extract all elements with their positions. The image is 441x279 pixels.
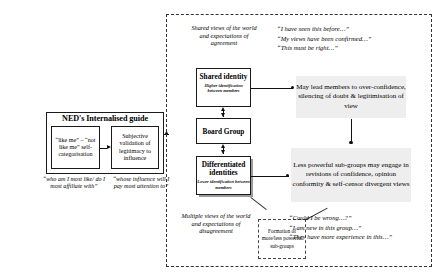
diagram-canvas: NED's Internalised guide “like me” – “no… xyxy=(0,0,441,279)
board-group-box: Board Group xyxy=(196,118,251,144)
bottom-quotes-group: “Could I be wrong…?” “I am new in this g… xyxy=(289,213,439,242)
shared-identity-title: Shared identity xyxy=(197,73,250,81)
differentiated-identities-to-outcome-line xyxy=(251,176,289,177)
shared-to-board-arrowhead-down xyxy=(221,113,225,117)
differentiated-identities-subtitle: Lower identification between members xyxy=(197,179,250,189)
board-group-label: Board Group xyxy=(197,119,250,145)
outcome-link-line xyxy=(351,119,352,143)
ned-right-caption: “whose influence will I pay most attenti… xyxy=(110,176,172,191)
legitimacy-validation-label: Subjective validation of legitimacy to i… xyxy=(112,133,158,162)
shared-identity-to-outcome-line xyxy=(251,88,293,89)
board-to-differentiated-arrowhead-up xyxy=(221,144,225,148)
upper-outcome-block: May lead members to over-confidence, sil… xyxy=(296,76,406,118)
differentiated-identities-title: Differentiated identities xyxy=(197,161,250,177)
self-categorisation-box: “like me” – “not like me” self-categoris… xyxy=(51,126,100,169)
bottom-quote-2: “I am new in this group…” xyxy=(289,223,439,233)
differentiated-identities-box: Differentiated identities Lower identifi… xyxy=(196,156,251,195)
self-categorisation-label: “like me” – “not like me” self-categoris… xyxy=(52,137,99,159)
legitimacy-validation-box: Subjective validation of legitimacy to i… xyxy=(111,126,159,169)
shared-identity-box: Shared identity Higher identification be… xyxy=(196,68,251,107)
lower-outcome-block: Less powerful sub-groups may engage in r… xyxy=(291,148,411,202)
top-quote-1: “I have seen this before…” xyxy=(277,24,427,34)
upper-outcome-label: May lead members to over-confidence, sil… xyxy=(296,83,406,111)
bottom-quote-3: “They have more experience in this…” xyxy=(289,232,439,242)
top-quote-2: “My views have been confirmed…” xyxy=(277,34,427,44)
shared-views-caption: Shared views of the world and expectatio… xyxy=(186,24,262,47)
bottom-quote-1: “Could I be wrong…?” xyxy=(289,213,439,223)
lower-outcome-label: Less powerful sub-groups may engage in r… xyxy=(291,161,411,189)
ned-internal-connector-arrowhead xyxy=(107,145,111,149)
top-quote-3: “This must be right…” xyxy=(277,43,427,53)
ned-left-caption: “who am I most like/ do I most affiliate… xyxy=(38,176,110,191)
board-to-differentiated-arrowhead-down xyxy=(221,150,225,154)
multiple-views-caption: Multiple views of the world and expectat… xyxy=(178,212,254,235)
shared-identity-subtitle: Higher identification between members xyxy=(197,83,250,93)
top-quotes-group: “I have seen this before…” “My views hav… xyxy=(277,24,427,53)
shared-to-board-arrowhead-up xyxy=(221,107,225,111)
ned-panel-title: NED's Internalised guide xyxy=(46,114,164,123)
